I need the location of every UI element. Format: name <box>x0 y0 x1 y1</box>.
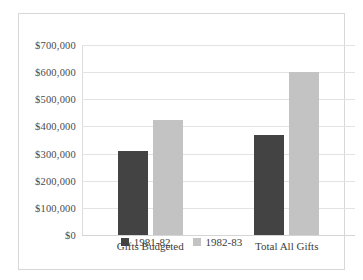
legend-label: 1982-83 <box>206 236 243 248</box>
gridline: $700,000 <box>82 45 355 46</box>
legend-swatch-icon <box>193 238 201 246</box>
y-axis-tick-label: $200,000 <box>35 175 76 186</box>
y-axis-line <box>82 45 83 235</box>
plot-area: $700,000$600,000$500,000$400,000$300,000… <box>82 45 355 235</box>
legend-swatch-icon <box>121 238 129 246</box>
chart-legend: 1981-821982-83 <box>19 236 344 248</box>
legend-item-1982-83[interactable]: 1982-83 <box>193 236 243 248</box>
y-axis-tick-label: $400,000 <box>35 121 76 132</box>
bar-1982-83-gifts-budgeted <box>153 120 183 235</box>
y-axis-tick-label: $500,000 <box>35 94 76 105</box>
bar-1981-82-total-all-gifts <box>254 135 284 235</box>
y-axis-tick-label: $600,000 <box>35 67 76 78</box>
bar-1982-83-total-all-gifts <box>289 72 319 235</box>
y-axis-tick-label: $300,000 <box>35 148 76 159</box>
y-axis-tick-label: $700,000 <box>35 40 76 51</box>
y-axis-tick-label: $100,000 <box>35 202 76 213</box>
chart-frame: $700,000$600,000$500,000$400,000$300,000… <box>18 13 345 270</box>
legend-label: 1981-82 <box>134 236 171 248</box>
bar-1981-82-gifts-budgeted <box>118 151 148 235</box>
legend-item-1981-82[interactable]: 1981-82 <box>121 236 171 248</box>
